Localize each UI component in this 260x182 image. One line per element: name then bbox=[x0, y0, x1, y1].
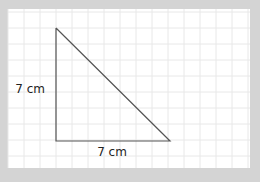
diagram-canvas: 7 cm 7 cm bbox=[0, 0, 260, 182]
left-side-label: 7 cm bbox=[15, 82, 45, 96]
bottom-side-label: 7 cm bbox=[97, 145, 127, 159]
